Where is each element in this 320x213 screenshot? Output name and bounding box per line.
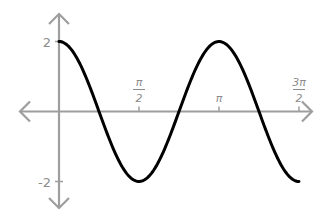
x-tick-label: π bbox=[216, 92, 223, 105]
y-tick-label: -2 bbox=[38, 175, 51, 190]
x-tick-label-numerator: π bbox=[136, 76, 143, 89]
x-tick-label-denominator: 2 bbox=[296, 92, 303, 105]
function-plot: 2-2π2π3π2 bbox=[0, 0, 320, 213]
y-tick-label: 2 bbox=[43, 35, 51, 50]
x-tick-label-denominator: 2 bbox=[136, 92, 143, 105]
x-tick-label-numerator: 3π bbox=[292, 76, 306, 89]
